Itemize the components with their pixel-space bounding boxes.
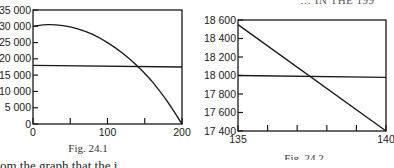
y-tick-label: 17 600: [204, 106, 236, 118]
body-text-fragment: om the graph that the i: [0, 158, 117, 168]
y-tick-label: 18 400: [204, 32, 236, 44]
y-tick-label: 18 600: [204, 14, 236, 26]
x-tick-label: 140: [377, 133, 394, 145]
series-line: [238, 76, 386, 78]
x-tick-label: 135: [229, 133, 247, 145]
series-line: [238, 25, 386, 131]
y-tick-label: 18 200: [204, 51, 236, 63]
figure-24-2-chart: 17 40017 60017 80018 00018 20018 40018 6…: [0, 0, 394, 160]
figure-caption: Fig. 24.2: [284, 152, 323, 160]
y-tick-label: 17 800: [204, 88, 236, 100]
y-tick-label: 18 000: [204, 69, 236, 81]
